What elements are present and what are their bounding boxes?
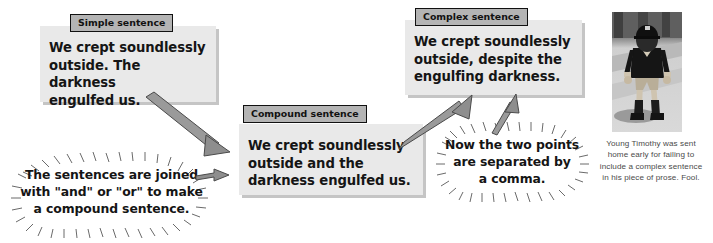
- arrow-compound-to-complex: [399, 95, 472, 149]
- label-complex-sentence: Complex sentence: [415, 8, 528, 26]
- label-simple-sentence: Simple sentence: [70, 14, 173, 32]
- label-compound-sentence: Compound sentence: [243, 105, 367, 123]
- arrow-callout-left-to-compound: [196, 169, 229, 181]
- diagram-canvas: The sentences are joined with "and" or "…: [0, 0, 713, 243]
- arrow-simple-to-compound: [146, 92, 230, 156]
- arrow-callout-right-to-complex: [492, 94, 519, 135]
